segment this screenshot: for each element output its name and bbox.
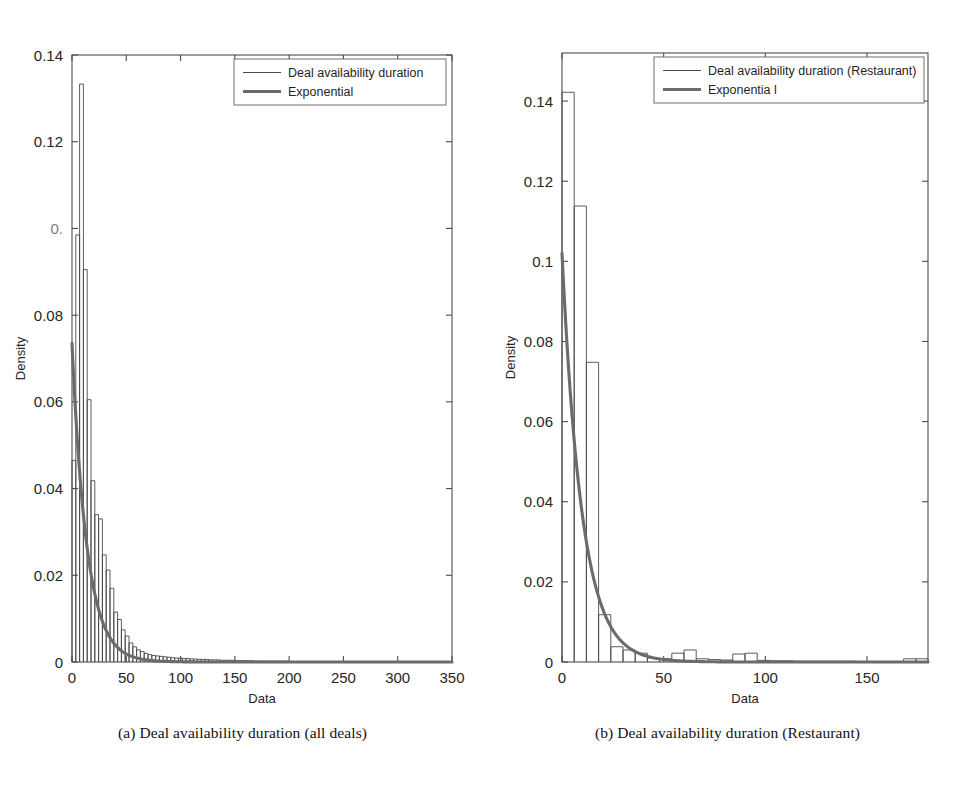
legend-label: Exponentia l [708,83,777,97]
y-tick-label: 0.06 [524,413,553,430]
caption-panel-a: (a) Deal availability duration (all deal… [0,724,485,742]
y-tick-label: 0.04 [34,480,63,497]
histogram-bar [129,643,133,662]
figure-container: 05010015020025030035000.020.040.060.080.… [0,0,970,785]
histogram-bar [121,630,125,662]
chart-a-canvas: 05010015020025030035000.020.040.060.080.… [0,0,485,720]
histogram-bar [83,270,87,662]
x-axis-title: Data [248,691,276,706]
y-tick-label: 0.08 [34,307,63,324]
histogram-bar [114,612,118,662]
plot-frame [562,53,928,662]
x-axis-title: Data [731,691,759,706]
chart-legend: Deal availability duration (Restaurant)E… [654,57,924,103]
x-tick-label: 50 [655,669,672,686]
y-tick-label: 0.12 [524,173,553,190]
y-tick-label: 0.14 [34,47,63,64]
y-tick-label: 0.02 [524,573,553,590]
histogram-bar [102,555,106,662]
x-tick-label: 100 [753,669,778,686]
y-tick-label: 0 [545,654,553,671]
chart-panel-b: 05010015000.020.040.060.080.10.120.14Dat… [485,0,970,785]
x-tick-label: 150 [854,669,879,686]
histogram-bar [110,588,114,662]
histogram-bar [99,519,103,662]
y-tick-label: 0. [50,220,63,237]
x-tick-label: 50 [118,669,135,686]
x-tick-label: 200 [277,669,302,686]
y-tick-label: 0.12 [34,133,63,150]
histogram-series [562,92,928,662]
chart-panel-a: 05010015020025030035000.020.040.060.080.… [0,0,485,785]
y-tick-label: 0.08 [524,333,553,350]
histogram-bar [586,362,598,662]
y-tick-label: 0.04 [524,493,553,510]
histogram-bar [118,620,122,662]
x-tick-label: 0 [68,669,76,686]
histogram-series [72,84,452,662]
y-tick-label: 0.06 [34,393,63,410]
chart-legend: Deal availability durationExponential [234,59,446,105]
histogram-bar [80,84,84,662]
x-tick-label: 250 [331,669,356,686]
y-axis-title: Density [503,335,518,379]
histogram-bar [95,515,99,662]
y-axis-title: Density [13,336,28,380]
y-tick-label: 0.02 [34,567,63,584]
y-tick-label: 0.1 [532,253,553,270]
exponential-fit-curve [562,253,928,662]
legend-label: Exponential [288,85,353,99]
histogram-bar [574,206,586,662]
legend-label: Deal availability duration (Restaurant) [708,64,916,78]
histogram-bar [611,647,623,662]
x-tick-label: 100 [168,669,193,686]
x-tick-label: 150 [222,669,247,686]
histogram-bar [72,460,76,662]
caption-panel-b: (b) Deal availability duration (Restaura… [485,724,970,742]
x-tick-label: 300 [385,669,410,686]
plot-frame [72,55,452,662]
y-tick-label: 0 [55,654,63,671]
x-tick-label: 0 [558,669,566,686]
histogram-bar [87,400,91,662]
legend-label: Deal availability duration [288,66,424,80]
histogram-bar [106,570,110,662]
chart-b-canvas: 05010015000.020.040.060.080.10.120.14Dat… [485,0,970,720]
y-tick-label: 0.14 [524,93,553,110]
exponential-fit-curve [72,343,452,662]
histogram-bar [133,647,137,662]
x-tick-label: 350 [439,669,464,686]
